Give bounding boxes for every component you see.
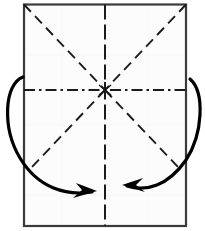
origami-diagram-canvas: Origami fold diagram Rectangular sheet o…: [0, 0, 205, 231]
origami-diagram: Origami fold diagram Rectangular sheet o…: [0, 0, 205, 231]
